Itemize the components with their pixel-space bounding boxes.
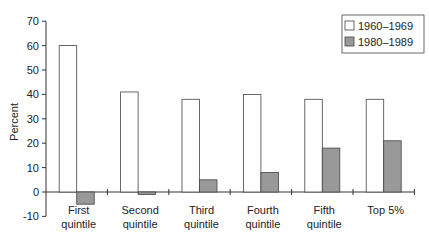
bar [121,92,139,192]
y-tick-label: 0 [33,186,39,198]
category-label: quintile [184,218,219,230]
category-label: quintile [245,218,280,230]
bar [322,148,340,192]
legend-swatch-1960-1969 [345,21,354,30]
y-tick-label: 30 [27,113,39,125]
y-tick-label: 10 [27,162,39,174]
y-tick-label: -10 [23,210,39,222]
bar [305,99,323,192]
y-axis-title: Percent [8,103,20,141]
category-label: quintile [307,218,342,230]
legend: 1960–1969 1980–1989 [342,15,424,53]
y-tick-label: 40 [27,88,39,100]
bar [261,172,279,192]
category-label: Second [121,204,158,216]
legend-label-1960-1969: 1960–1969 [358,20,413,32]
category-label: Fourth [247,204,279,216]
category-label: quintile [123,218,158,230]
y-tick-label: 50 [27,64,39,76]
x-axis [46,189,414,195]
category-label: Third [189,204,214,216]
bar [138,192,156,194]
category-label: First [68,204,89,216]
bars [59,46,401,205]
y-tick-label: 70 [27,15,39,27]
bar [59,46,76,192]
legend-swatch-1980-1989 [345,37,354,46]
bar [243,94,261,192]
y-tick-label: 20 [27,137,39,149]
bar [384,141,402,192]
category-label: Fifth [314,204,335,216]
y-axis: -10010203040506070 [23,15,46,222]
bar [366,99,384,192]
bar-chart: -10010203040506070 FirstquintileSecondqu… [0,0,429,240]
bar [200,180,218,192]
bar [182,99,200,192]
category-label: Top 5% [367,204,404,216]
category-labels: FirstquintileSecondquintileThirdquintile… [61,204,404,230]
legend-label-1980-1989: 1980–1989 [358,36,413,48]
y-tick-label: 60 [27,40,39,52]
category-label: quintile [61,218,96,230]
bar [77,192,95,204]
